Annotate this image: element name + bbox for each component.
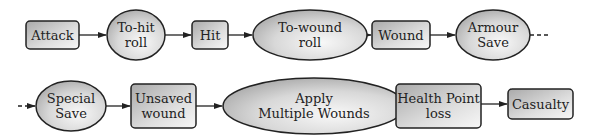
node-label: To-wound [278,20,342,35]
node-label: roll [299,35,321,50]
node-label: Save [477,35,509,50]
node-label: To-hit [117,20,155,35]
node-label: Multiple Wounds [258,106,370,121]
node-label: Wound [378,28,423,43]
node-wound: Wound [372,21,430,49]
node-label: Attack [30,28,74,43]
node-label: roll [125,35,147,50]
node-label: Special [47,91,95,106]
node-health-point-loss: Health Pointloss [396,84,481,128]
node-label: Apply [294,91,333,106]
node-label: wound [141,106,185,121]
node-label: Armour [467,20,519,35]
node-label: loss [426,106,451,121]
node-label: Casualty [512,97,570,112]
node-to-hit-roll: To-hitroll [107,10,165,60]
node-apply-multiple-wounds: ApplyMultiple Wounds [223,78,405,134]
node-special-save: SpecialSave [36,81,106,131]
node-attack: Attack [26,21,79,49]
node-armour-save: ArmourSave [456,10,530,60]
node-label: Hit [200,28,221,43]
node-unsaved-wound: Unsavedwound [131,84,196,128]
node-hit: Hit [192,21,228,49]
node-casualty: Casualty [508,89,573,119]
node-to-wound-roll: To-woundroll [253,10,367,60]
node-label: Save [55,106,87,121]
node-label: Unsaved [135,91,192,106]
node-label: Health Point [397,91,480,106]
flowchart-diagram: AttackTo-hitrollHitTo-woundrollWoundArmo… [0,0,589,138]
